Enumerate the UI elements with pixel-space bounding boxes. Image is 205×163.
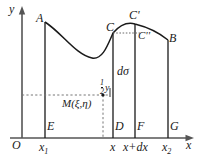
half-y-numerator: 1 bbox=[100, 79, 104, 87]
tick-label-x: x bbox=[110, 141, 115, 153]
curve-point-label-B: B bbox=[169, 32, 176, 44]
origin-label: O bbox=[12, 139, 21, 151]
curve-point-label-C: C bbox=[106, 21, 114, 33]
half-y-denominator: 2 bbox=[100, 88, 104, 96]
y-axis bbox=[19, 6, 25, 138]
base-point-label-E: E bbox=[47, 120, 54, 132]
tick-label-x1: x1 bbox=[39, 141, 48, 156]
half-y-label: 1 2 y bbox=[100, 79, 109, 97]
figure-container: y O x A C C' C'' B E D F G x1 x x+dx x2 … bbox=[0, 0, 205, 163]
area-element-label: dσ bbox=[117, 65, 129, 77]
base-point-label-G: G bbox=[170, 120, 179, 132]
base-point-label-F: F bbox=[137, 120, 144, 132]
tick-label-x-plus-dx: x+dx bbox=[123, 141, 148, 153]
base-point-label-D: D bbox=[115, 120, 124, 132]
midpoint-label: M(ξ,η) bbox=[62, 98, 91, 109]
curve-point-label-C-double-prime: C'' bbox=[138, 30, 150, 41]
tick-label-x2: x2 bbox=[162, 141, 171, 156]
curve-point-label-C-prime: C' bbox=[129, 9, 140, 21]
curve-point-label-A: A bbox=[36, 12, 43, 24]
y-axis-label: y bbox=[9, 3, 14, 15]
x-axis-label: x bbox=[186, 139, 191, 151]
half-y-variable: y bbox=[105, 82, 109, 93]
